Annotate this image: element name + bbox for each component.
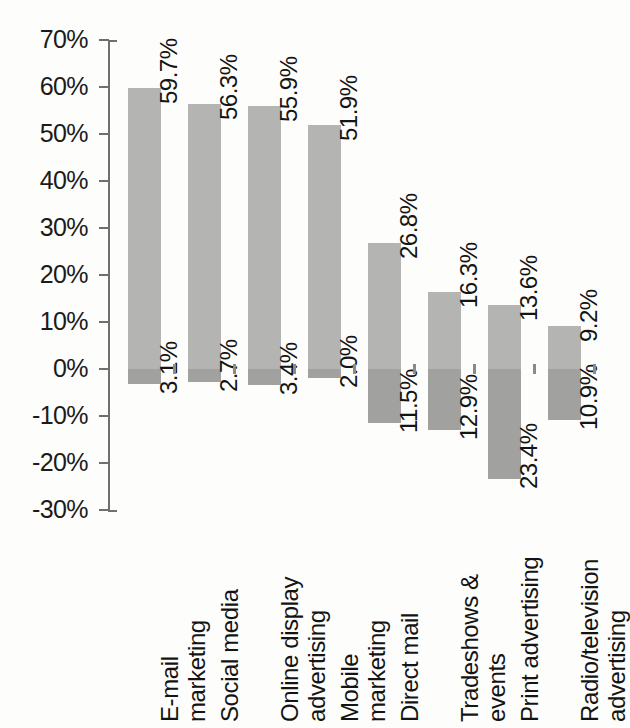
y-axis-tick-label: 50% <box>0 121 88 146</box>
x-axis-category-label: Online displayadvertising <box>276 577 330 722</box>
zero-axis-tick <box>593 364 596 374</box>
bar-positive <box>308 125 341 369</box>
bar-value-label-positive: 9.2% <box>577 289 601 342</box>
category-label-line-2: advertising <box>603 559 630 722</box>
bar-value-label-negative: 23.4% <box>517 423 541 489</box>
category-label-line-1: E-mail <box>156 656 183 722</box>
category-label-line-2: marketing <box>363 620 390 722</box>
y-axis-tick-label: 30% <box>0 215 88 240</box>
category-label-line-2: advertising <box>303 577 330 722</box>
category-label-line-2: marketing <box>183 620 210 722</box>
category-label-line-2: events <box>483 574 510 722</box>
x-axis-category-label: Print advertising <box>516 557 543 722</box>
category-label-line-1: Radio/television <box>576 559 603 722</box>
zero-axis-tick <box>293 364 296 374</box>
category-label-line-1: Social media <box>216 589 243 722</box>
bar-value-label-negative: 12.9% <box>457 374 481 440</box>
bar-value-label-negative: 3.1% <box>157 341 181 394</box>
bar-value-label-negative: 11.5% <box>397 369 421 433</box>
y-axis-tick-label: -20% <box>0 450 88 475</box>
y-axis-tick-label: -10% <box>0 403 88 428</box>
x-axis-category-label: Direct mail <box>396 613 423 722</box>
zero-axis-tick <box>353 364 356 374</box>
y-axis-tick-label: 40% <box>0 168 88 193</box>
x-axis-category-label: Social media <box>216 589 243 722</box>
bar-value-label-positive: 59.7% <box>157 39 181 105</box>
bar-value-label-positive: 51.9% <box>337 76 361 142</box>
y-axis-tick-label: -30% <box>0 497 88 522</box>
y-axis-tick-label: 60% <box>0 74 88 99</box>
category-label-line-1: Direct mail <box>396 613 423 722</box>
bar-value-label-positive: 13.6% <box>517 256 541 322</box>
plot-area: 59.7%3.1%56.3%2.7%55.9%3.4%51.9%2.0%26.8… <box>108 40 625 512</box>
bar-value-label-negative: 2.0% <box>337 336 361 389</box>
bar-positive <box>188 104 221 369</box>
zero-axis-tick <box>413 364 416 374</box>
category-label-line-1: Mobile <box>336 654 363 722</box>
category-label-line-1: Print advertising <box>516 557 543 722</box>
category-label-line-1: Tradeshows & <box>456 574 483 722</box>
zero-axis-tick <box>473 364 476 374</box>
x-axis-category-label: Mobilemarketing <box>336 620 390 722</box>
y-axis-tick-label: 0% <box>0 356 88 381</box>
bar-value-label-negative: 3.4% <box>277 342 301 395</box>
category-label-line-1: Online display <box>276 577 303 722</box>
x-axis-category-label: Tradeshows &events <box>456 574 510 722</box>
x-axis-category-label: Radio/televisionadvertising <box>576 559 630 722</box>
bar-value-label-negative: 2.7% <box>217 339 241 392</box>
bar-value-label-negative: 10.9% <box>577 365 601 431</box>
bar-positive <box>368 243 401 369</box>
zero-axis-tick <box>533 364 536 374</box>
y-axis-tick-label: 10% <box>0 309 88 334</box>
zero-axis-tick <box>233 364 236 374</box>
bar-value-label-positive: 16.3% <box>457 243 481 309</box>
bar-value-label-positive: 55.9% <box>277 57 301 123</box>
zero-axis-tick <box>173 364 176 374</box>
bar-positive <box>248 106 281 369</box>
bar-positive <box>128 88 161 369</box>
bar-value-label-positive: 56.3% <box>217 55 241 121</box>
bar-value-label-positive: 26.8% <box>397 193 421 259</box>
x-axis-category-label: E-mailmarketing <box>156 620 210 722</box>
y-axis-tick-label: 20% <box>0 262 88 287</box>
y-axis-tick-label: 70% <box>0 27 88 52</box>
